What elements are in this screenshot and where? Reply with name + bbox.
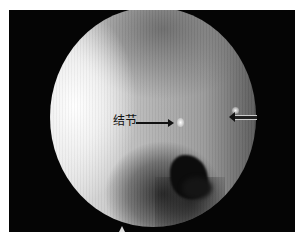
nodule-highlight	[177, 118, 184, 127]
endoscope-view	[50, 10, 256, 227]
arrow-left-icon	[235, 115, 257, 120]
scanline-texture	[50, 10, 256, 227]
lumen-cavity-lower	[182, 177, 212, 199]
nodule-label: 结节	[113, 114, 137, 128]
arrow-right-icon	[136, 122, 171, 124]
image-frame	[9, 10, 295, 232]
scope-notch	[119, 226, 125, 232]
